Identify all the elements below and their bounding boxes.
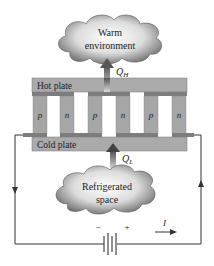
refrigerated-space-cloud: Refrigerated space: [56, 165, 155, 214]
heat-out-arrow-shaft: [104, 78, 110, 94]
cold-side-connectors: [23, 133, 194, 137]
heat-out-label: QH: [116, 66, 129, 79]
warm-cloud-line1: Warm: [98, 27, 122, 38]
warm-cloud-line2: environment: [85, 40, 136, 51]
cold-plate-label: Cold plate: [37, 140, 76, 150]
thermoelectric-diagram: Warm environment QH Hot plate p n p n p …: [0, 0, 214, 266]
cold-cloud-line2: space: [96, 194, 119, 205]
leg-label: p: [37, 110, 43, 120]
current-direction-up-icon: [198, 180, 204, 187]
heat-in-label: QL: [122, 153, 133, 166]
hot-plate-label: Hot plate: [37, 81, 72, 91]
leg-label: p: [148, 110, 154, 120]
current-arrow-icon: [155, 229, 177, 235]
battery-icon: [104, 233, 116, 255]
battery-minus-label: −: [95, 222, 100, 232]
current-direction-down-icon: [12, 187, 18, 194]
battery-plus-label: +: [124, 222, 129, 232]
semiconductor-legs: p n p n p n: [33, 96, 186, 134]
warm-environment-cloud: Warm environment: [59, 15, 162, 64]
leg-label: p: [92, 110, 98, 120]
leg-label: n: [177, 110, 182, 120]
current-label: I: [162, 218, 167, 228]
hot-side-connectors: [32, 92, 187, 96]
leg-label: n: [65, 110, 70, 120]
cold-cloud-line1: Refrigerated: [82, 181, 132, 192]
leg-label: n: [121, 110, 126, 120]
